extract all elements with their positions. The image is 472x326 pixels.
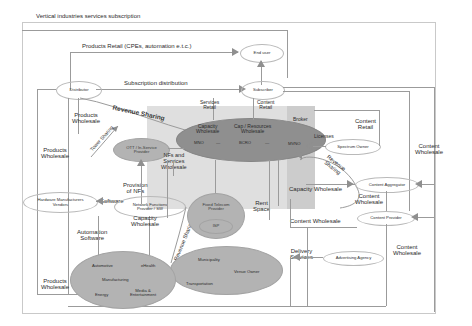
node-hardware-manufacturers-label: Hardware Manufacturers Vendors <box>37 198 83 207</box>
edge-label-cap-resources-wholesale: Cap / Resources Wholesale <box>234 124 271 135</box>
node-content-aggregator-label: Content Aggregator <box>369 183 405 187</box>
node-distributor-label: Distributor <box>69 88 88 92</box>
node-manufacturing-label: Manufacturing <box>102 278 129 282</box>
node-content-provider-label: Content Provider <box>370 216 401 220</box>
line-outer-right-rail <box>287 30 288 78</box>
node-transportation-label: Transportation <box>186 282 213 286</box>
arrow-revenue-sharing-right <box>294 152 304 161</box>
line-subscription-distribution <box>96 89 244 90</box>
line-content-wholesale-left2 <box>290 227 357 228</box>
node-media-entertainment-label: Media & Entertainment <box>130 289 156 298</box>
edge-label-licenses: Licenses <box>314 134 334 139</box>
node-mvno-label: MVNO <box>288 142 301 146</box>
node-advertising-agency-label: Advertising Agency <box>336 256 372 260</box>
line-subscriber-right-1 <box>283 87 434 88</box>
arrow-agg-from-right <box>415 180 425 189</box>
node-municipality-group <box>170 246 283 295</box>
line-rent-space-2 <box>278 160 279 206</box>
edge-label-automation-software: Automation Software <box>77 229 107 242</box>
diagram-title: Vertical industries services subscriptio… <box>36 13 140 19</box>
edge-label-products-wholesale-2: Products Wholesale <box>41 147 69 160</box>
edge-label-capacity-wholesale-1: Capacity Wholesale <box>196 124 219 135</box>
edge-label-content-retail-top: Content Retail <box>257 100 275 111</box>
pw3-text: Products Wholesale <box>41 278 69 290</box>
arrow-agg-left <box>347 180 357 189</box>
pw2-text: Products Wholesale <box>41 147 69 159</box>
dash-bcro-mvno: — <box>265 141 269 145</box>
arrow-enduser-up <box>257 60 266 68</box>
line-content-retail-top <box>253 98 254 120</box>
line-provider-up <box>386 191 387 211</box>
edge-label-products-wholesale-1: Products Wholesale <box>72 112 100 125</box>
line-subscriber-right-2 <box>283 91 409 92</box>
node-nf-provider-label: Network Functions Provider / SW <box>133 203 168 212</box>
line-bottom-right-vert <box>307 227 308 306</box>
node-subscriber: Subscriber <box>241 81 285 100</box>
edge-label-content-wholesale-mid: Content Wholesale <box>355 193 383 206</box>
line-outer-top-rail <box>22 30 287 31</box>
arrow-provision-nfs <box>137 159 146 167</box>
node-bcro-label: BCRO <box>239 141 251 145</box>
node-subscriber-label: Subscriber <box>253 88 273 92</box>
line-spectrum-up <box>379 110 380 146</box>
node-isp-label: ISP <box>213 224 220 228</box>
edge-label-services-retail: Services Retail <box>200 100 219 111</box>
node-energy-label: Energy <box>95 293 108 297</box>
edge-label-broker: Broker <box>293 117 308 122</box>
node-municipality-label: Municipality <box>198 258 220 262</box>
line-content-wholesale-left2-v <box>290 199 291 227</box>
node-content-aggregator: Content Aggregator <box>355 177 419 193</box>
node-end-user-label: End user <box>254 51 271 55</box>
node-fixed-telecom-provider-label: Fixed Telecom Provider <box>203 203 230 212</box>
line-products-retail <box>70 52 238 53</box>
edge-label-content-wholesale-far-right: Content Wholesale <box>415 143 443 156</box>
line-right-outer-vert <box>434 87 435 312</box>
edge-label-rent-space: Rent Space <box>253 200 270 213</box>
edge-label-content-wholesale-right2: Content Wholesale <box>393 244 421 257</box>
node-advertising-agency: Advertising Agency <box>323 251 384 266</box>
line-distributor-left-vert <box>37 89 38 294</box>
edge-label-provision-of-nfs: Provision of NFs <box>123 182 148 195</box>
line-nfs-up <box>173 160 174 176</box>
line-right-inner-vert <box>409 91 410 211</box>
diagram-canvas: Vertical industries services subscriptio… <box>0 0 472 326</box>
edge-label-capacity-wholesale-2: Capacity Wholesale <box>131 215 159 228</box>
line-spectrum-up-h <box>314 110 379 111</box>
node-isp: ISP <box>199 219 233 234</box>
pw1-text: Products Wholesale <box>72 112 100 124</box>
edge-label-content-wholesale-left2: Content Wholesale <box>290 218 341 224</box>
arrow-advertising-left <box>293 253 303 262</box>
line-distributor-left-h <box>37 89 56 90</box>
node-hardware-manufacturers: Hardware Manufacturers Vendors <box>23 192 98 213</box>
edge-label-subscription-distribution: Subscription distribution <box>124 80 188 86</box>
node-ehealth-label: eHealth <box>141 264 155 268</box>
arrow-hardware-left <box>96 197 106 206</box>
arrow-provider-right <box>411 213 421 222</box>
node-spectrum-owner-label: Spectrum Owner <box>337 145 368 149</box>
node-venue-owner-label: Venue Owner <box>234 270 259 274</box>
line-ott-to-operator <box>168 148 184 149</box>
node-mno-label: MNO <box>194 141 204 145</box>
node-ott-provider-label: OTT / In-Service Provider <box>126 146 157 155</box>
line-rent-space <box>269 160 270 220</box>
edge-label-capacity-wholesale-right: Capacity Wholesale <box>289 186 342 192</box>
edge-label-products-wholesale-3: Products Wholesale <box>41 278 69 291</box>
line-provider-down <box>386 224 387 306</box>
dash-mno-bcro: — <box>216 141 220 145</box>
edge-label-content-retail-right: Content Retail <box>355 118 376 131</box>
node-automotive-label: Automotive <box>92 264 113 268</box>
line-advertising-down <box>290 257 291 306</box>
edge-label-products-retail: Products Retail (CPEs, automation e.t.c.… <box>82 43 191 49</box>
line-fixed-telecom-up <box>215 160 216 193</box>
